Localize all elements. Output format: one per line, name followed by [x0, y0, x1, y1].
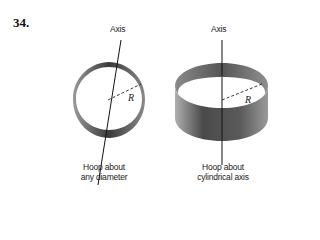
caption-right-line-1: Hoop about	[182, 162, 264, 172]
caption-right: Hoop about cylindrical axis	[182, 162, 264, 182]
radius-label-left: R	[127, 92, 134, 103]
caption-left: Hoop about any diameter	[66, 162, 142, 182]
hoop-left-back-band	[73, 62, 145, 99]
radius-label-right: R	[244, 94, 251, 105]
caption-left-line-2: any diameter	[66, 172, 142, 182]
caption-right-line-2: cylindrical axis	[182, 172, 264, 182]
caption-left-line-1: Hoop about	[66, 162, 142, 172]
hoop-right: R	[175, 40, 268, 165]
